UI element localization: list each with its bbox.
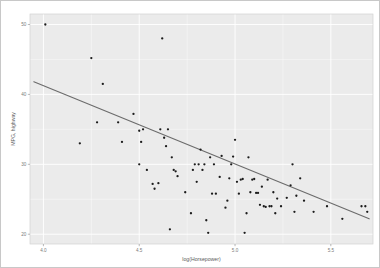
data-point (220, 155, 222, 157)
data-point (259, 204, 261, 206)
x-tick-label: 5.5 (328, 248, 335, 253)
data-point (171, 156, 173, 158)
data-point (151, 183, 153, 185)
data-point (280, 205, 282, 207)
data-point (238, 193, 240, 195)
data-point (176, 175, 178, 177)
data-point (341, 218, 343, 220)
data-point (203, 163, 205, 165)
data-point (205, 219, 207, 221)
data-point (215, 193, 217, 195)
data-point (242, 178, 244, 180)
data-point (219, 176, 221, 178)
data-point (90, 57, 92, 59)
data-point (153, 188, 155, 190)
chart-figure: 4.04.55.05.5 50403020 log(Horsepower) MP… (0, 0, 380, 268)
data-point (232, 155, 234, 157)
data-point (312, 211, 314, 213)
data-point (228, 177, 230, 179)
data-point (117, 121, 119, 123)
data-point (266, 179, 268, 181)
data-point (197, 163, 199, 165)
x-tick-label: 5.0 (232, 248, 239, 253)
data-point (199, 148, 201, 150)
data-point (213, 163, 215, 165)
data-point (209, 156, 211, 158)
data-point (272, 191, 274, 193)
data-point (146, 169, 148, 171)
data-point (230, 163, 232, 165)
data-point (174, 170, 176, 172)
data-point (226, 200, 228, 202)
data-point (140, 141, 142, 143)
data-point (293, 211, 295, 213)
data-point (207, 232, 209, 234)
data-point (276, 197, 278, 199)
data-point (173, 169, 175, 171)
y-tick-label: 40 (21, 92, 27, 97)
data-point (274, 212, 276, 214)
data-point (196, 181, 198, 183)
data-point (190, 212, 192, 214)
data-point (142, 128, 144, 130)
data-point (265, 206, 267, 208)
data-point (163, 137, 165, 139)
data-point (364, 205, 366, 207)
data-point (249, 191, 251, 193)
data-point (253, 178, 255, 180)
data-point (224, 206, 226, 208)
data-point (245, 212, 247, 214)
y-tick-label: 20 (21, 232, 27, 237)
data-point (326, 205, 328, 207)
data-point (138, 130, 140, 132)
data-point (184, 191, 186, 193)
data-point (79, 142, 81, 144)
data-point (157, 182, 159, 184)
data-point (289, 184, 291, 186)
y-tick-label: 30 (21, 162, 27, 167)
data-point (121, 141, 123, 143)
data-point (169, 228, 171, 230)
data-point (132, 113, 134, 115)
data-point (194, 163, 196, 165)
data-point (360, 205, 362, 207)
plot-panel-background (30, 14, 373, 244)
data-point (257, 192, 259, 194)
data-point (159, 128, 161, 130)
data-point (261, 186, 263, 188)
data-point (303, 200, 305, 202)
y-axis-title: MPG, highway (10, 112, 16, 146)
x-tick-label: 4.0 (40, 248, 47, 253)
data-point (286, 197, 288, 199)
y-axis-ticks: 50403020 (21, 22, 30, 237)
data-point (167, 128, 169, 130)
x-axis-ticks: 4.04.55.05.5 (40, 244, 334, 253)
data-point (295, 195, 297, 197)
data-point (165, 145, 167, 147)
scatter-plot: 4.04.55.05.5 50403020 log(Horsepower) MP… (1, 1, 380, 268)
data-point (192, 169, 194, 171)
data-point (211, 193, 213, 195)
data-point (243, 232, 245, 234)
data-point (102, 83, 104, 85)
data-point (247, 156, 249, 158)
data-point (366, 211, 368, 213)
data-point (201, 169, 203, 171)
data-point (236, 181, 238, 183)
data-point (291, 163, 293, 165)
data-point (161, 37, 163, 39)
data-point (270, 205, 272, 207)
data-point (44, 23, 46, 25)
x-tick-label: 4.5 (136, 248, 143, 253)
data-point (96, 121, 98, 123)
y-tick-label: 50 (21, 22, 27, 27)
x-axis-title: log(Horsepower) (182, 256, 221, 262)
data-point (138, 163, 140, 165)
data-point (234, 139, 236, 141)
data-point (299, 177, 301, 179)
